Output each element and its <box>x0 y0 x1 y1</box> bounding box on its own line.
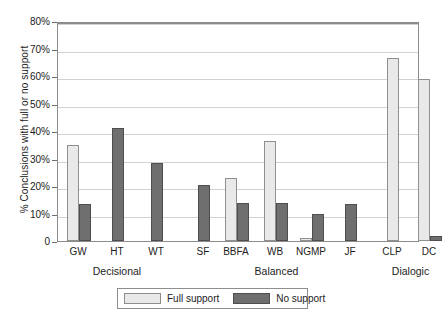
x-tick-label-wt: WT <box>137 246 175 257</box>
gridline <box>58 52 418 53</box>
y-tick-mark <box>52 242 57 243</box>
bar-full-support-ngmp <box>300 238 312 241</box>
y-tick-label: 20% <box>30 180 50 193</box>
y-tick: 70% <box>0 50 57 51</box>
x-tick-label-jf: JF <box>331 246 369 257</box>
bar-no-support-jf <box>345 204 357 241</box>
y-tick: 80% <box>0 22 57 23</box>
y-tick: 60% <box>0 77 57 78</box>
x-tick-label-gw: GW <box>59 246 97 257</box>
x-tick-label-wb: WB <box>256 246 294 257</box>
bar-no-support-gw <box>79 204 91 241</box>
y-tick-label: 70% <box>30 43 50 56</box>
bar-no-support-wb <box>276 203 288 242</box>
bar-full-support-gw <box>67 145 79 241</box>
y-tick-label: 80% <box>30 15 50 28</box>
bar-full-support-clp <box>387 58 399 241</box>
y-tick-label: 50% <box>30 98 50 111</box>
bar-no-support-ngmp <box>312 214 324 242</box>
y-tick: 10% <box>0 215 57 216</box>
y-tick-label: 60% <box>30 70 50 83</box>
legend-label-no-support: No support <box>276 293 325 304</box>
gridline <box>58 79 418 80</box>
legend-item-no-support: No support <box>233 293 325 304</box>
gridline <box>58 107 418 108</box>
y-tick-label: 30% <box>30 153 50 166</box>
plot-area <box>57 22 419 242</box>
y-tick: 0 <box>0 242 57 243</box>
y-tick-label: 10% <box>30 208 50 221</box>
y-tick-label: 40% <box>30 125 50 138</box>
legend: Full support No support <box>117 288 308 309</box>
x-tick-label-bbfa: BBFA <box>217 246 255 257</box>
group-label-balanced: Balanced <box>217 265 337 277</box>
legend-item-full-support: Full support <box>124 293 219 304</box>
y-tick: 30% <box>0 160 57 161</box>
group-label-dialogic: Dialogic <box>351 265 446 277</box>
bar-no-support-dc <box>430 236 442 242</box>
bar-no-support-bbfa <box>237 203 249 242</box>
x-tick-label-clp: CLP <box>373 246 411 257</box>
legend-swatch-full-support <box>124 293 161 304</box>
bar-no-support-sf <box>198 185 210 241</box>
bar-no-support-ht <box>112 128 124 241</box>
y-tick-label: 0 <box>44 235 50 248</box>
y-tick: 20% <box>0 187 57 188</box>
x-tick-label-ngmp: NGMP <box>292 246 330 257</box>
bar-full-support-wb <box>264 141 276 241</box>
y-tick: 50% <box>0 105 57 106</box>
legend-swatch-no-support <box>233 293 270 304</box>
legend-label-full-support: Full support <box>167 293 219 304</box>
group-label-decisional: Decisional <box>57 265 177 277</box>
gridline <box>58 24 418 25</box>
y-axis-title: % Conclusions with full or no support <box>19 10 30 250</box>
y-tick: 40% <box>0 132 57 133</box>
x-tick-label-dc: DC <box>410 246 446 257</box>
bar-full-support-dc <box>418 79 430 241</box>
x-tick-label-ht: HT <box>98 246 136 257</box>
bar-full-support-bbfa <box>225 178 237 241</box>
bar-no-support-wt <box>151 163 163 241</box>
